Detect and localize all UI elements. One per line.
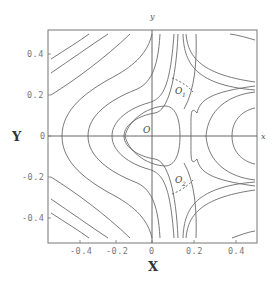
- x-axis-letter: x: [261, 132, 266, 141]
- svg-text:0: 0: [149, 246, 155, 256]
- x-tick-labels: -0.4 -0.2 0 0.2 0.4: [70, 246, 245, 256]
- y-axis-title: Y: [11, 129, 22, 144]
- svg-text:1: 1: [182, 91, 186, 98]
- origin-label: O: [143, 125, 151, 135]
- tick-marks: [48, 54, 236, 243]
- y-tick-labels: 0.4 0.2 0 -0.2 -0.4: [22, 49, 46, 223]
- svg-text:0: 0: [40, 131, 46, 141]
- phase-portrait-diagram: O O 1 O 2 y x -0.4 -0.2 0 0.2 0.4 0.4 0.…: [0, 0, 280, 288]
- svg-text:-0.4: -0.4: [70, 246, 92, 256]
- y-axis-letter: y: [149, 12, 155, 21]
- x-axis-title: X: [148, 259, 159, 274]
- svg-text:2: 2: [181, 180, 186, 187]
- saddle-label-o2: O 2: [175, 175, 186, 187]
- svg-text:-0.4: -0.4: [22, 213, 44, 223]
- plot-frame: [48, 30, 257, 243]
- saddle-label-o1: O 1: [175, 86, 186, 98]
- svg-text:0.2: 0.2: [27, 90, 44, 100]
- svg-text:0.4: 0.4: [228, 246, 245, 256]
- svg-text:0.2: 0.2: [186, 246, 203, 256]
- svg-text:0.4: 0.4: [27, 49, 44, 59]
- svg-text:-0.2: -0.2: [106, 246, 128, 256]
- svg-text:-0.2: -0.2: [22, 172, 44, 182]
